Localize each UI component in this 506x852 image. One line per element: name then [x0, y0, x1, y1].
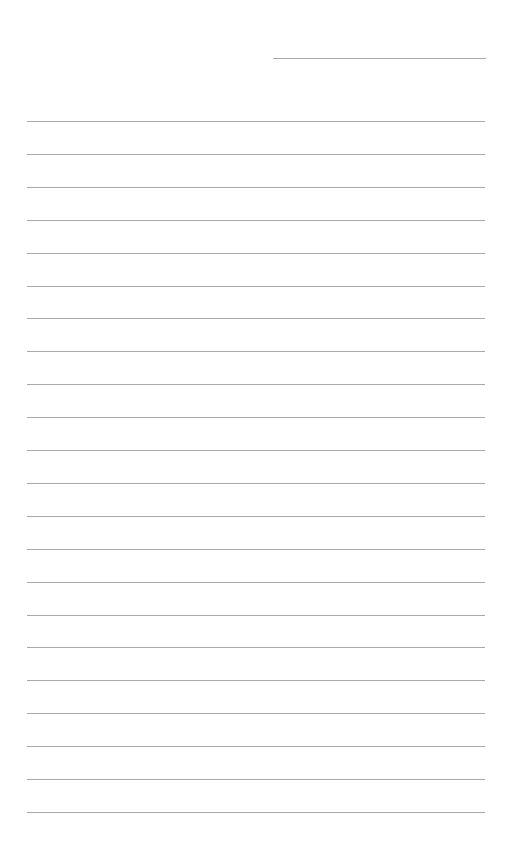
- header-name-line: [273, 58, 486, 59]
- ruled-line: [27, 516, 485, 517]
- ruled-line: [27, 220, 485, 221]
- lined-paper-page: [0, 0, 506, 852]
- ruled-line: [27, 450, 485, 451]
- ruled-line: [27, 615, 485, 616]
- ruled-line: [27, 713, 485, 714]
- ruled-line: [27, 647, 485, 648]
- ruled-line: [27, 384, 485, 385]
- ruled-line: [27, 746, 485, 747]
- ruled-line: [27, 187, 485, 188]
- ruled-line: [27, 680, 485, 681]
- ruled-line: [27, 582, 485, 583]
- ruled-line: [27, 779, 485, 780]
- ruled-line: [27, 812, 485, 813]
- ruled-line: [27, 417, 485, 418]
- ruled-line: [27, 154, 485, 155]
- ruled-line: [27, 549, 485, 550]
- ruled-line: [27, 253, 485, 254]
- ruled-line: [27, 318, 485, 319]
- ruled-line: [27, 121, 485, 122]
- ruled-line: [27, 286, 485, 287]
- ruled-line: [27, 483, 485, 484]
- ruled-line: [27, 351, 485, 352]
